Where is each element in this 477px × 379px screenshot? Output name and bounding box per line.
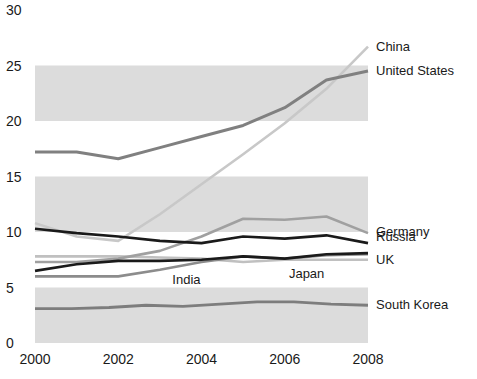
y-tick-0: 0: [6, 335, 14, 351]
y-tick-15: 15: [6, 169, 22, 185]
inline-annotations: IndiaJapan: [172, 266, 324, 287]
annotation-india: India: [172, 272, 201, 287]
annotation-japan: Japan: [289, 266, 324, 281]
x-tick-2004: 2004: [186, 351, 217, 367]
x-tick-2000: 2000: [19, 351, 50, 367]
y-tick-30: 30: [6, 2, 22, 18]
series-label-south-korea: South Korea: [376, 297, 449, 312]
x-tick-2008: 2008: [352, 351, 383, 367]
y-tick-5: 5: [6, 280, 14, 296]
series-label-china: China: [376, 39, 411, 54]
series-label-united-states: United States: [376, 63, 455, 78]
series-label-russia: Russia: [376, 229, 417, 244]
y-axis-tick-labels: 051015202530: [6, 2, 22, 351]
x-tick-2006: 2006: [269, 351, 300, 367]
chart-canvas: 051015202530 ChinaUnited StatesGermanyRu…: [0, 0, 477, 379]
line-chart: 051015202530 ChinaUnited StatesGermanyRu…: [0, 0, 477, 379]
background-bands: [35, 66, 368, 344]
band-0-5: [35, 288, 368, 344]
series-label-uk: UK: [376, 252, 394, 267]
y-tick-20: 20: [6, 113, 22, 129]
y-tick-25: 25: [6, 58, 22, 74]
x-axis-tick-labels: 20002002200420062008: [19, 351, 383, 367]
y-tick-10: 10: [6, 224, 22, 240]
band-20-25: [35, 66, 368, 122]
x-tick-2002: 2002: [103, 351, 134, 367]
series-labels: ChinaUnited StatesGermanyRussiaUKSouth K…: [376, 39, 455, 313]
